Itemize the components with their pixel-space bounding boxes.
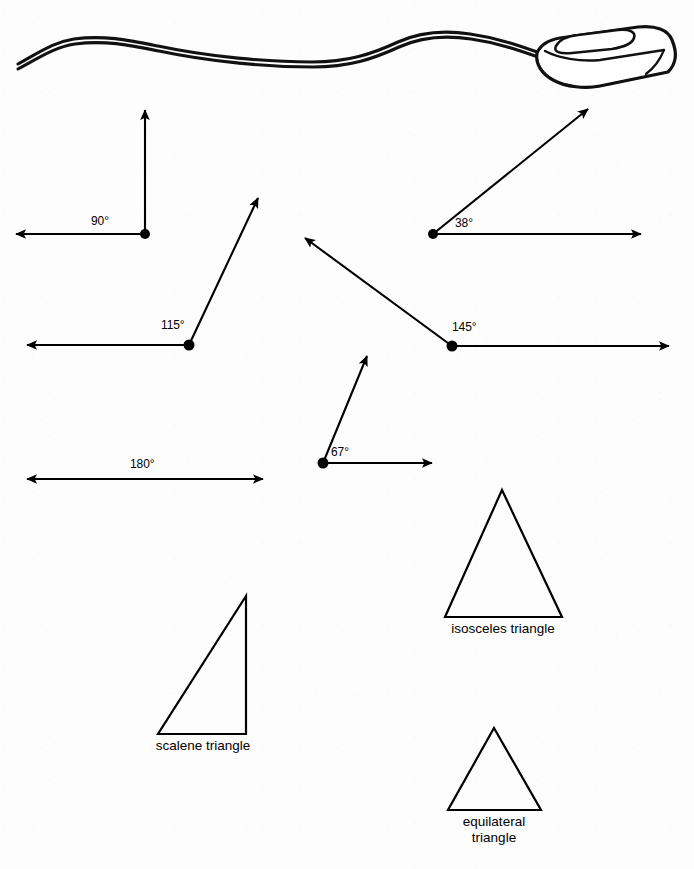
equilateral-triangle-shape <box>448 728 541 810</box>
angle-label-180: 180° <box>130 457 154 471</box>
angle-90-figure <box>16 110 150 239</box>
scalene-triangle-label: scalene triangle <box>143 738 263 754</box>
angle-115-ray-diagonal <box>189 198 258 345</box>
angle-38-vertex <box>428 229 438 239</box>
angle-label-90: 90° <box>91 214 109 228</box>
angle-145-vertex <box>447 341 458 352</box>
angle-115-figure <box>27 198 258 351</box>
equilateral-triangle-label-line1: equilateral <box>463 814 525 829</box>
equilateral-triangle-label-line2: triangle <box>472 830 516 845</box>
angle-label-115: 115° <box>161 318 185 332</box>
scalene-triangle-shape <box>158 596 246 734</box>
angle-115-vertex <box>184 340 195 351</box>
isosceles-triangle-shape <box>445 490 562 617</box>
angle-label-145: 145° <box>452 320 476 334</box>
angle-67-vertex <box>318 458 329 469</box>
angle-145-ray-diagonal <box>305 238 452 346</box>
angle-90-vertex <box>140 229 150 239</box>
angle-label-67: 67° <box>331 445 349 459</box>
equilateral-triangle-label: equilateral triangle <box>434 814 554 846</box>
worksheet-page: 90° 38° 115° 145° 67° 180° isosceles tri… <box>0 0 694 869</box>
angle-label-38: 38° <box>455 216 473 230</box>
isosceles-triangle-label: isosceles triangle <box>443 621 563 637</box>
computer-mouse-icon <box>18 27 675 88</box>
angle-145-figure <box>305 238 669 352</box>
geometry-figure-canvas <box>0 0 694 869</box>
